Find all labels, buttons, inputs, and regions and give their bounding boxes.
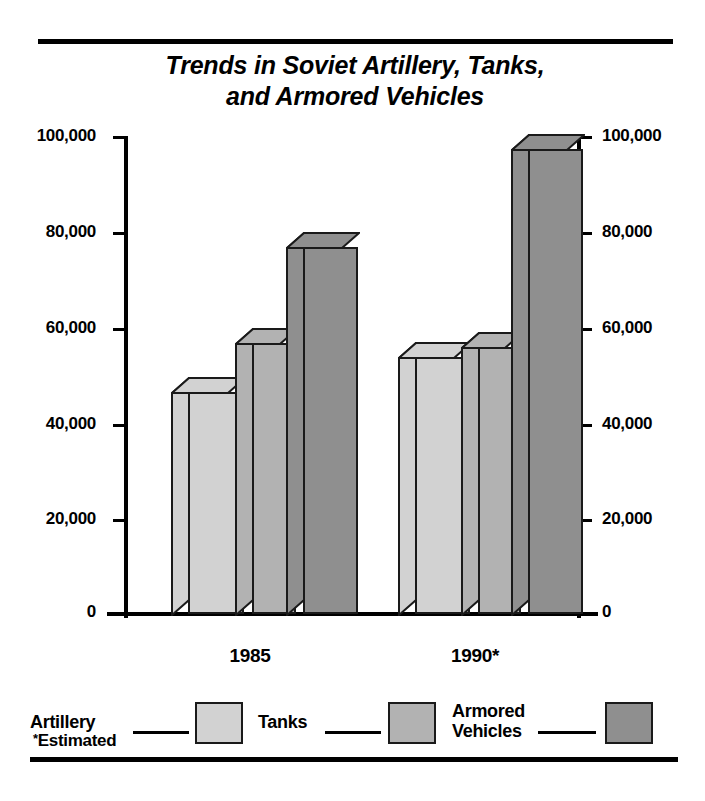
y-tick-left-60000 [113, 328, 125, 331]
footnote: *Estimated [33, 731, 116, 751]
y-label-left-100000: 100,000 [37, 126, 96, 146]
legend-swatch-armored-vehicles [605, 702, 653, 744]
bar-face-armored-1985 [303, 247, 358, 614]
chart-legend: Artillery Tanks Armored Vehicles [30, 693, 680, 753]
x-group-label-1990: 1990* [415, 645, 535, 667]
chart-page: Trends in Soviet Artillery, Tanks, and A… [0, 0, 705, 801]
y-label-left-20000: 20,000 [46, 509, 96, 529]
legend-label-armored-vehicles: Armored Vehicles [452, 701, 525, 741]
y-label-left-80000: 80,000 [46, 222, 96, 242]
bar-armored-1985 [303, 232, 358, 614]
legend-leader-armored-vehicles [538, 731, 596, 734]
legend-swatch-artillery [195, 702, 243, 744]
y-label-right-40000: 40,000 [602, 414, 652, 434]
bar-armored-1990 [528, 134, 583, 614]
x-group-label-1985: 1985 [190, 645, 310, 667]
legend-label-artillery: Artillery [30, 712, 95, 732]
bar-face-armored-1990 [528, 149, 583, 614]
y-label-right-60000: 60,000 [602, 318, 652, 338]
y-axis-left [124, 136, 128, 618]
y-tick-left-20000 [113, 519, 125, 522]
legend-swatch-tanks [388, 702, 436, 744]
y-tick-left-100000 [113, 136, 125, 139]
y-tick-left-0 [107, 612, 125, 616]
y-tick-left-40000 [113, 424, 125, 427]
y-label-left-0: 0 [87, 602, 96, 622]
y-label-right-0: 0 [602, 602, 611, 622]
footnote-text: Estimated [38, 731, 117, 750]
y-label-right-100000: 100,000 [602, 126, 661, 146]
legend-label-tanks: Tanks [258, 712, 307, 732]
legend-leader-tanks [325, 731, 381, 734]
y-label-left-40000: 40,000 [46, 414, 96, 434]
y-label-right-80000: 80,000 [602, 222, 652, 242]
legend-leader-artillery [133, 731, 189, 734]
plot-area: 100,000 80,000 60,000 40,000 20,000 0 10… [0, 0, 705, 801]
y-label-left-60000: 60,000 [46, 318, 96, 338]
bottom-rule [30, 757, 678, 762]
y-tick-left-80000 [113, 232, 125, 235]
y-label-right-20000: 20,000 [602, 509, 652, 529]
